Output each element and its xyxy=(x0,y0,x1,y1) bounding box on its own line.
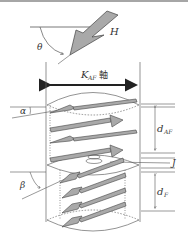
field-h-group: H θ xyxy=(30,10,119,64)
axis-label-sub: AF xyxy=(87,74,97,81)
d-f-label-main: d xyxy=(157,186,163,197)
d-af-label-main: d xyxy=(157,123,163,134)
axis-label-suffix: 軸 xyxy=(99,69,108,80)
alpha-label: α xyxy=(20,106,26,116)
d-f-dimension: d F xyxy=(141,172,175,211)
beta-label: β xyxy=(19,180,25,190)
upper-arrow-2-icon xyxy=(50,115,123,132)
axis-label-group: K AF 軸 xyxy=(50,69,136,85)
lower-layer-arrows xyxy=(60,158,126,227)
theta-label: θ xyxy=(37,42,43,52)
theta-arc xyxy=(40,27,63,54)
d-af-label-sub: AF xyxy=(163,128,173,135)
field-h-label: H xyxy=(109,26,119,37)
upper-layer-arrows xyxy=(50,99,137,162)
field-direction-line xyxy=(58,55,70,64)
upper-arrow-4-icon xyxy=(50,145,123,162)
upper-arrow-3-icon xyxy=(50,130,137,143)
j-label: J xyxy=(170,158,177,168)
interface-coupling-icon xyxy=(86,155,102,164)
d-f-label-sub: F xyxy=(163,191,169,198)
d-af-dimension: d AF xyxy=(141,104,175,153)
upper-arrow-1-icon xyxy=(50,99,137,113)
diagram-canvas: H θ K AF 軸 α xyxy=(0,0,188,239)
